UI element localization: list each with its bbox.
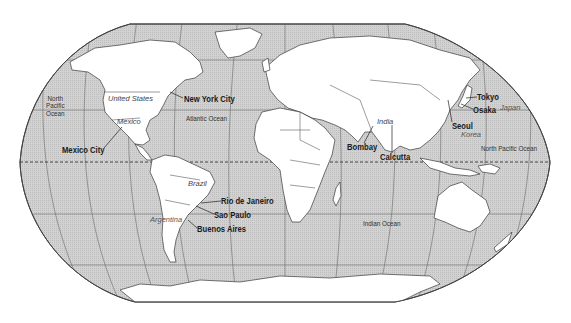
country-label: Argentina xyxy=(150,216,182,224)
ocean-label-north-pacific-west: North Pacific Ocean xyxy=(46,95,65,117)
ocean-label-line: Ocean xyxy=(46,110,65,117)
ocean-label-atlantic: Atlantic Ocean xyxy=(186,115,227,122)
country-label: Brazil xyxy=(188,180,207,188)
country-label: Mexico xyxy=(117,118,141,126)
ocean-label-indian: Indian Ocean xyxy=(363,220,400,227)
city-label: Rio de Janeiro xyxy=(221,197,274,206)
city-label: Calcutta xyxy=(380,153,410,162)
country-label: United States xyxy=(108,95,153,103)
country-label: Korea xyxy=(461,131,481,139)
world-map xyxy=(0,0,571,323)
city-label: Sao Paulo xyxy=(214,211,251,220)
city-label: Osaka xyxy=(473,106,496,115)
city-label: Buenos Aires xyxy=(197,225,246,234)
ocean-label-line: North xyxy=(46,95,65,102)
country-label: India xyxy=(377,118,393,126)
ocean-label-north-pacific-east: North Pacific Ocean xyxy=(481,145,537,152)
city-label: New York City xyxy=(184,95,235,104)
country-label: Japan xyxy=(500,104,520,112)
city-label: Mexico City xyxy=(62,146,105,155)
city-label: Tokyo xyxy=(477,93,499,102)
ocean-label-line: Pacific xyxy=(46,102,65,109)
city-label: Bombay xyxy=(347,143,377,152)
